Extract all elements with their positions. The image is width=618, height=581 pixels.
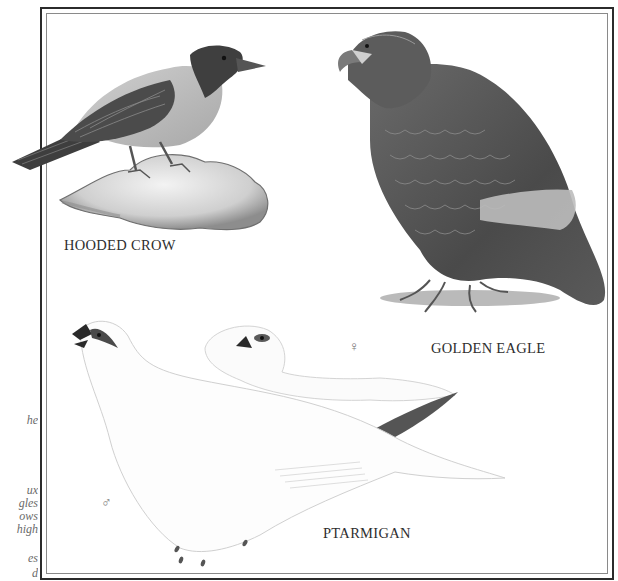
bird-illustration-plate	[0, 0, 618, 581]
hooded-crow-illustration	[12, 46, 268, 230]
rock-perch-icon	[60, 155, 268, 230]
label-golden-eagle: GOLDEN EAGLE	[431, 340, 545, 357]
female-symbol-icon: ♀	[349, 339, 360, 355]
ptarmigan-illustration	[72, 321, 505, 567]
male-symbol-icon: ♂	[101, 495, 112, 511]
label-hooded-crow: HOODED CROW	[64, 237, 176, 254]
golden-eagle-illustration	[338, 31, 605, 312]
label-ptarmigan: PTARMIGAN	[323, 525, 411, 542]
